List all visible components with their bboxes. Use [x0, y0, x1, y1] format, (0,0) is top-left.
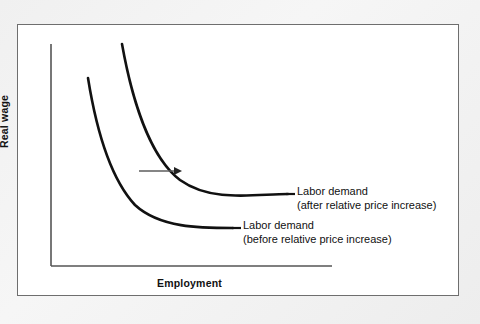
labor-demand-after-label-line2: (after relative price increase) — [297, 199, 436, 213]
x-axis-title: Employment — [157, 277, 222, 289]
y-axis-title: Real wage — [0, 28, 10, 148]
labor-demand-before-label-line1: Labor demand — [243, 219, 392, 233]
labor-demand-before-label-line2: (before relative price increase) — [243, 233, 392, 247]
labor-demand-before-label: Labor demand (before relative price incr… — [243, 219, 392, 246]
labor-demand-before-curve — [88, 78, 233, 228]
labor-demand-after-curve — [122, 44, 288, 196]
plot-canvas — [0, 0, 480, 324]
labor-demand-after-label: Labor demand (after relative price incre… — [297, 185, 436, 212]
shift-arrow-head-icon — [174, 167, 182, 175]
labor-demand-after-label-line1: Labor demand — [297, 185, 436, 199]
figure-root: Real wage Employment Labor demand (after… — [0, 0, 480, 324]
